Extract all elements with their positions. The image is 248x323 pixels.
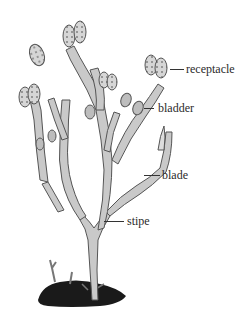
- blade-tip: [158, 126, 165, 150]
- bladder-leader-line: [144, 108, 154, 109]
- receptacle-label: receptacle: [186, 63, 235, 75]
- blade-leader-line: [144, 175, 160, 176]
- seaweed-illustration: [0, 0, 248, 323]
- stipe-label: stipe: [127, 215, 150, 227]
- stipe-leader-line: [104, 221, 124, 222]
- holdfast: [38, 260, 126, 307]
- blade-label: blade: [162, 169, 188, 181]
- receptacle-leader-line: [170, 69, 184, 70]
- bladder-label: bladder: [158, 102, 194, 114]
